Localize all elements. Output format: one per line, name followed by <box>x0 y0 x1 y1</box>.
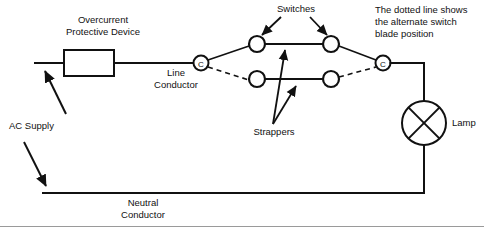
switches-arrow-right <box>310 17 327 35</box>
overcurrent-protective-device-body <box>64 50 114 76</box>
switch-blade-left-solid <box>208 46 249 60</box>
lamp-label: Lamp <box>452 117 484 129</box>
neutral-conductor-wire <box>43 145 424 193</box>
switch-contact-lower-left <box>249 71 265 87</box>
ac-supply-arrow-neutral <box>24 142 46 186</box>
switches-arrow-left <box>262 17 281 35</box>
switches-label: Switches <box>266 3 326 15</box>
lamp-supply-wire <box>391 63 425 101</box>
switch-contact-upper-left <box>249 36 265 52</box>
dotted-line-note: The dotted line shows the alternate swit… <box>375 4 483 40</box>
neutral-conductor-label: Neutral Conductor <box>96 197 190 221</box>
switch-blade-right-dashed <box>339 67 376 77</box>
right-common-terminal-letter: C <box>380 60 386 69</box>
line-conductor-label: Line Conductor <box>131 67 221 91</box>
ac-supply-arrow-line <box>45 71 66 114</box>
circuit-diagram: C C <box>0 0 484 233</box>
switch-contact-upper-right <box>323 36 339 52</box>
overcurrent-device-label: Overcurrent Protective Device <box>48 14 158 38</box>
strappers-label: Strappers <box>243 126 305 138</box>
ac-supply-label: AC Supply <box>9 120 79 132</box>
switch-blade-right-solid <box>339 46 376 60</box>
switch-contact-lower-right <box>323 71 339 87</box>
